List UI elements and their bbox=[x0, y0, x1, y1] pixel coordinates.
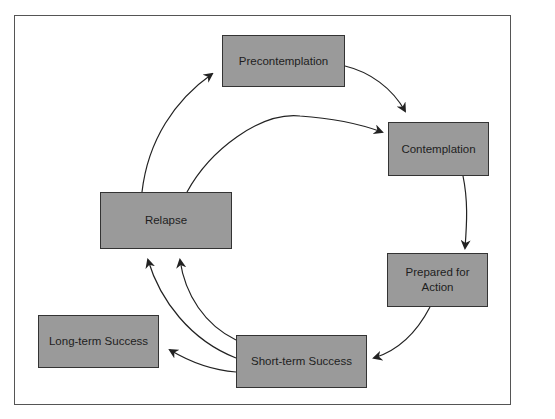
arrow-short-term-to-relapse-outer bbox=[148, 260, 236, 358]
arrow-relapse-to-contemplation bbox=[187, 116, 382, 192]
node-short-term-success: Short-term Success bbox=[236, 335, 367, 388]
node-prepared-for-action: Prepared for Action bbox=[387, 253, 488, 307]
node-contemplation: Contemplation bbox=[388, 122, 489, 176]
node-label: Relapse bbox=[145, 213, 187, 228]
node-label: Contemplation bbox=[401, 142, 475, 157]
node-label: Short-term Success bbox=[251, 354, 352, 369]
node-label: Precontemplation bbox=[239, 54, 329, 69]
arrow-precontemplation-to-contemplation bbox=[345, 66, 405, 111]
node-label-line1: Prepared for bbox=[406, 265, 470, 280]
arrow-prepared-to-short-term bbox=[374, 307, 430, 358]
node-label: Long-term Success bbox=[49, 334, 148, 349]
node-long-term-success: Long-term Success bbox=[38, 315, 159, 368]
arrow-short-term-to-relapse-inner bbox=[180, 260, 236, 340]
node-precontemplation: Precontemplation bbox=[222, 35, 345, 87]
arrow-relapse-to-precontemplation bbox=[142, 74, 212, 192]
node-relapse: Relapse bbox=[100, 192, 232, 249]
node-label-line2: Action bbox=[422, 280, 454, 295]
arrow-contemplation-to-prepared bbox=[463, 176, 467, 248]
